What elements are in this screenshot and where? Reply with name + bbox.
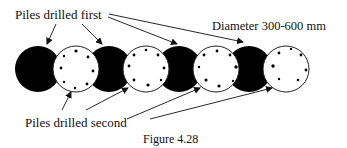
secant-pile-diagram: Piles drilled first Diameter 300-600 mm … bbox=[0, 0, 347, 148]
label-second: Piles drilled second bbox=[25, 115, 127, 130]
secondary-pile bbox=[263, 46, 309, 92]
secondary-pile bbox=[123, 46, 169, 92]
secondary-pile bbox=[193, 46, 239, 92]
figure-caption: Figure 4.28 bbox=[143, 132, 198, 146]
label-diameter: Diameter 300-600 mm bbox=[212, 19, 326, 33]
label-first: Piles drilled first bbox=[15, 7, 102, 22]
secondary-pile bbox=[53, 46, 99, 92]
